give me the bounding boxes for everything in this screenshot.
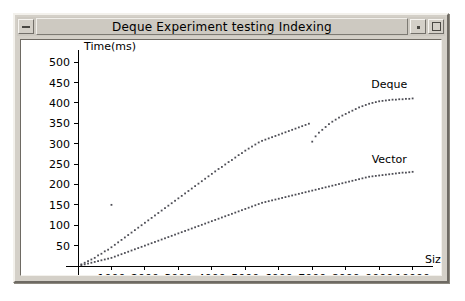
data-point	[221, 217, 223, 219]
data-point	[318, 132, 320, 134]
y-tick-label: 500	[49, 56, 70, 69]
series-label-deque: Deque	[371, 78, 407, 91]
data-point	[87, 260, 89, 262]
data-point	[224, 215, 226, 217]
data-point	[398, 172, 400, 174]
data-point	[174, 234, 176, 236]
data-point	[372, 175, 374, 177]
data-point	[402, 172, 404, 174]
data-point	[94, 261, 96, 263]
x-tick-label: 6000	[265, 272, 293, 276]
data-point	[107, 258, 109, 260]
data-point	[278, 134, 280, 136]
data-point	[335, 184, 337, 186]
data-point	[144, 222, 146, 224]
data-point	[184, 230, 186, 232]
x-tick-label: 7000	[298, 272, 326, 276]
data-point	[288, 195, 290, 197]
data-point	[301, 125, 303, 127]
y-tick-label: 450	[49, 77, 70, 90]
data-point	[275, 135, 277, 137]
data-point	[355, 179, 357, 181]
data-point	[295, 194, 297, 196]
data-point	[238, 210, 240, 212]
data-point	[117, 241, 119, 243]
data-point	[84, 263, 86, 265]
application-window: Deque Experiment testing Indexing 501001…	[13, 13, 449, 283]
data-point	[392, 173, 394, 175]
data-point	[305, 191, 307, 193]
data-point	[285, 131, 287, 133]
data-point	[144, 245, 146, 247]
data-point	[90, 259, 92, 261]
data-point	[111, 246, 113, 248]
data-point	[251, 206, 253, 208]
data-point	[248, 207, 250, 209]
data-point	[228, 161, 230, 163]
data-point	[97, 255, 99, 257]
y-tick-label: 400	[49, 97, 70, 110]
data-point	[308, 123, 310, 125]
data-point	[358, 107, 360, 109]
title-bar[interactable]: Deque Experiment testing Indexing	[17, 17, 445, 36]
data-point	[315, 189, 317, 191]
data-point	[137, 247, 139, 249]
data-point	[181, 231, 183, 233]
restore-icon[interactable]	[410, 19, 426, 34]
data-point	[335, 119, 337, 121]
data-point	[264, 139, 266, 141]
maximize-icon[interactable]	[428, 19, 444, 34]
x-axis-title: Size	[425, 253, 442, 266]
data-point	[385, 174, 387, 176]
data-point	[412, 98, 414, 100]
data-point	[248, 148, 250, 150]
data-point	[208, 221, 210, 223]
data-point	[378, 100, 380, 102]
data-point	[188, 229, 190, 231]
data-point	[345, 113, 347, 115]
data-point	[154, 241, 156, 243]
data-point	[221, 166, 223, 168]
data-point	[291, 129, 293, 131]
data-point	[341, 115, 343, 117]
data-point	[295, 128, 297, 130]
data-point	[87, 263, 89, 265]
minimize-icon[interactable]	[18, 19, 34, 34]
data-point	[191, 228, 193, 230]
data-point	[385, 100, 387, 102]
data-point	[338, 183, 340, 185]
data-point	[244, 150, 246, 152]
x-tick-label: 10000	[395, 272, 430, 276]
data-point	[80, 264, 82, 266]
data-point	[141, 224, 143, 226]
data-point	[90, 262, 92, 264]
data-point	[261, 202, 263, 204]
data-point	[131, 232, 133, 234]
data-point	[184, 193, 186, 195]
data-point	[315, 135, 317, 137]
data-point	[101, 253, 103, 255]
data-point	[365, 177, 367, 179]
data-point	[154, 215, 156, 217]
data-point	[408, 171, 410, 173]
data-point	[338, 117, 340, 119]
data-point	[164, 237, 166, 239]
data-point	[348, 181, 350, 183]
data-point	[408, 98, 410, 100]
data-point	[214, 171, 216, 173]
data-point	[331, 185, 333, 187]
data-point	[311, 141, 313, 143]
x-tick-label: 4000	[198, 272, 226, 276]
data-point	[131, 250, 133, 252]
series-label-vector: Vector	[372, 153, 408, 166]
y-axis-title: Time(ms)	[83, 40, 136, 53]
data-point	[325, 126, 327, 128]
data-point	[167, 236, 169, 238]
data-point	[395, 173, 397, 175]
data-point	[321, 187, 323, 189]
y-tick-label: 300	[49, 138, 70, 151]
data-point	[234, 212, 236, 214]
data-point	[124, 237, 126, 239]
data-point	[398, 98, 400, 100]
data-point	[151, 217, 153, 219]
